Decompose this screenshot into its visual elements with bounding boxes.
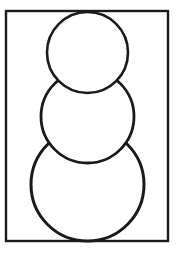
- circle-top: [47, 12, 128, 93]
- snowman-illustration: [0, 0, 176, 254]
- drawing-canvas: Snowman outline drawing Three overlappin…: [0, 0, 176, 254]
